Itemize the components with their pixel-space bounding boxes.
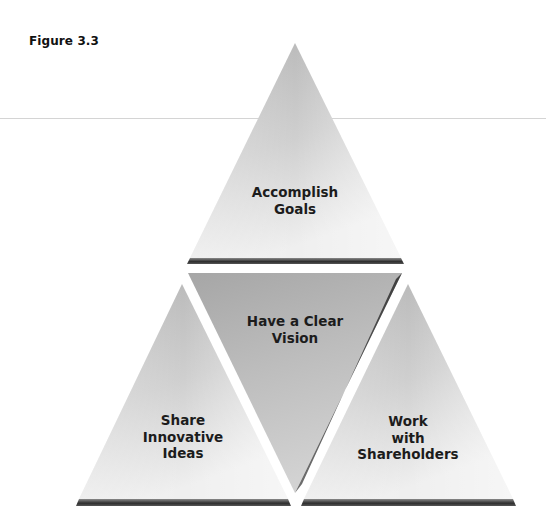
label-line: Ideas: [143, 445, 223, 462]
label-clear-vision: Have a Clear Vision: [247, 313, 343, 346]
label-line: Accomplish: [252, 184, 338, 201]
label-line: Have a Clear: [247, 313, 343, 330]
label-line: Goals: [252, 201, 338, 218]
label-line: with: [357, 430, 458, 447]
label-share-ideas: Share Innovative Ideas: [143, 412, 223, 462]
label-line: Vision: [247, 330, 343, 347]
label-line: Share: [143, 412, 223, 429]
triangle-diagram: [0, 0, 546, 527]
label-work-shareholders: Work with Shareholders: [357, 413, 458, 463]
label-line: Work: [357, 413, 458, 430]
label-line: Shareholders: [357, 446, 458, 463]
label-line: Innovative: [143, 429, 223, 446]
triangle-top: [187, 43, 404, 264]
label-accomplish-goals: Accomplish Goals: [252, 184, 338, 217]
